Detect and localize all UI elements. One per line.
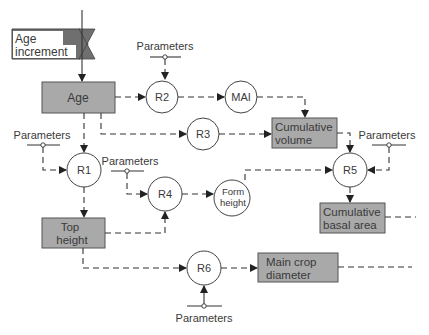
node-form-height: Form height (214, 180, 250, 216)
svg-text:R4: R4 (158, 188, 172, 200)
node-r6: R6 (187, 251, 221, 285)
svg-text:Form: Form (222, 186, 244, 197)
cumulative-basal-area-box: Cumulative basal area (320, 203, 385, 233)
top-height-box: Top height (42, 218, 105, 248)
svg-text:Parameters: Parameters (176, 312, 233, 324)
parameters-r6: Parameters (176, 286, 233, 324)
node-r5: R5 (333, 153, 367, 187)
growth-model-diagram: Age increment Age Parameters R2 MAI R3 (0, 0, 429, 335)
main-crop-diameter-box: Main crop diameter (258, 253, 338, 282)
svg-text:Parameters: Parameters (102, 155, 159, 167)
parameters-r5: Parameters (359, 129, 416, 170)
svg-text:Parameters: Parameters (14, 129, 71, 141)
node-r4: R4 (148, 177, 182, 211)
svg-text:Parameters: Parameters (359, 129, 416, 141)
svg-text:MAI: MAI (231, 91, 251, 103)
svg-text:diameter: diameter (266, 269, 311, 281)
edge-topheight-r6 (83, 248, 186, 268)
svg-text:Main crop: Main crop (266, 256, 317, 268)
svg-text:basal area: basal area (323, 219, 377, 231)
svg-text:R1: R1 (77, 164, 91, 176)
node-r3: R3 (187, 118, 219, 150)
node-mai: MAI (225, 81, 257, 113)
age-increment-label-2: increment (15, 45, 68, 59)
svg-text:R2: R2 (155, 91, 169, 103)
age-increment-label-1: Age (15, 32, 37, 46)
parameters-r2: Parameters (137, 40, 194, 79)
svg-text:Age: Age (67, 91, 89, 105)
node-r1: R1 (67, 153, 101, 187)
parameters-r1: Parameters (14, 129, 71, 170)
svg-text:Cumulative: Cumulative (323, 206, 381, 218)
svg-text:height: height (220, 197, 246, 208)
edge-mai-cumvol (257, 97, 305, 117)
edge-topheight-r4 (105, 212, 165, 233)
node-r2: R2 (146, 81, 178, 113)
svg-text:R5: R5 (343, 164, 357, 176)
edge-age-r3 (101, 113, 186, 134)
svg-text:R3: R3 (196, 128, 210, 140)
svg-text:Parameters: Parameters (137, 40, 194, 52)
cumulative-volume-box: Cumulative volume (272, 118, 337, 148)
svg-text:R6: R6 (197, 262, 211, 274)
edge-formheight-r5 (245, 170, 332, 180)
edge-cumvol-r5 (337, 133, 350, 152)
svg-text:Cumulative: Cumulative (275, 121, 333, 133)
svg-text:height: height (56, 234, 88, 246)
svg-text:volume: volume (275, 134, 312, 146)
svg-text:Top: Top (61, 221, 80, 233)
age-box: Age (42, 82, 115, 113)
